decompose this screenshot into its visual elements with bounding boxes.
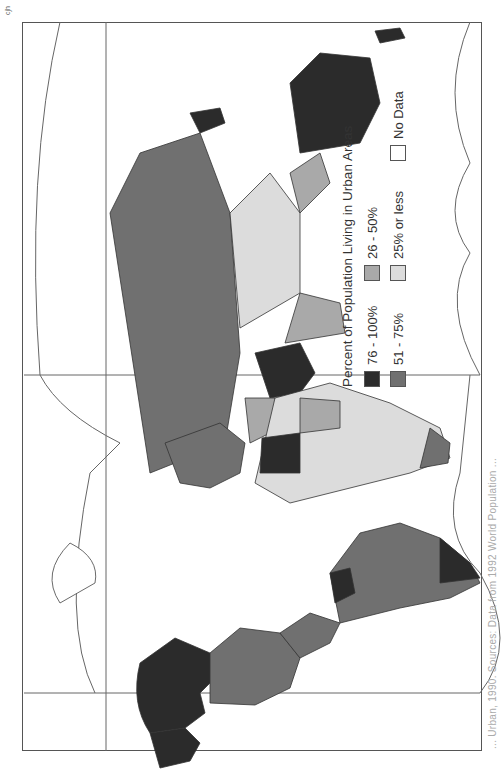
region-libya [260,433,300,473]
legend-item-51-75: 51 - 75% [390,313,406,387]
legend-label: 51 - 75% [391,313,406,365]
legend-label: 26 - 50% [365,207,380,259]
map-figure: Percent of Population Living in Urban Ar… [0,0,504,773]
region-east-africa [300,398,340,433]
region-ussr [110,133,240,473]
swatch-icon [390,145,406,161]
legend: Percent of Population Living in Urban Ar… [340,33,420,393]
legend-title: Percent of Population Living in Urban Ar… [340,126,355,387]
legend-label: 76 - 100% [365,306,380,365]
region-southeast-asia [290,153,330,213]
region-japan [190,108,225,133]
swatch-icon [390,371,406,387]
region-india [285,293,345,343]
legend-item-25-or-less: 25% or less [390,191,406,281]
north-america [137,613,340,768]
africa [255,383,450,503]
legend-item-26-50: 26 - 50% [364,207,380,281]
region-greenland [52,543,96,603]
swatch-icon [364,371,380,387]
region-china [230,173,300,328]
map-credit: cjh [4,6,11,15]
legend-item-no-data: No Data [390,91,406,161]
region-alaska [150,728,200,768]
swatch-icon [390,265,406,281]
legend-item-76-100: 76 - 100% [364,306,380,387]
swatch-icon [364,265,380,281]
legend-label: 25% or less [391,191,406,259]
region-canada [137,638,215,733]
figure-caption: ... Urban, 1990. Sources: Data from 1992… [487,458,498,749]
legend-label: No Data [391,91,406,139]
world-map [0,0,504,773]
